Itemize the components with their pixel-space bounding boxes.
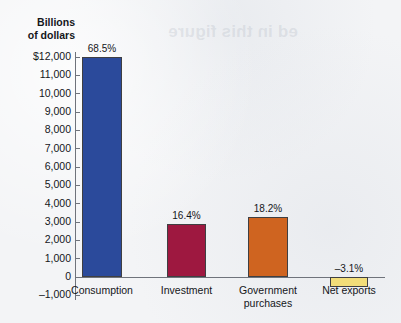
x-axis-category-label: Net exports — [299, 284, 399, 297]
bar-value-label: 16.4% — [147, 210, 227, 221]
bar-value-label: 68.5% — [62, 43, 142, 54]
y-axis-tick-label: 3,000 — [0, 215, 71, 227]
y-axis-tick — [75, 57, 80, 58]
y-axis-tick-label: 6,000 — [0, 160, 71, 172]
bar-value-label: 18.2% — [228, 203, 308, 214]
y-axis-tick — [75, 185, 80, 186]
y-axis-tick — [75, 222, 80, 223]
y-axis-tick — [75, 148, 80, 149]
y-axis-line — [75, 52, 76, 300]
bar-investment — [167, 224, 206, 277]
y-axis-tick-label: 7,000 — [0, 142, 71, 154]
y-axis-tick — [75, 112, 80, 113]
y-axis-title-line-2: of dollars — [0, 29, 75, 42]
y-axis-tick-label: 11,000 — [0, 68, 71, 80]
y-axis-tick — [75, 203, 80, 204]
bar-chart: Billions of dollars $12,00011,00010,0009… — [0, 0, 401, 323]
y-axis-tick-label: $12,000 — [0, 50, 71, 62]
y-axis-title-line-1: Billions — [0, 16, 75, 29]
y-axis-tick — [75, 130, 80, 131]
y-axis-tick — [75, 240, 80, 241]
y-axis-tick-label: 10,000 — [0, 87, 71, 99]
y-axis-tick-label: 8,000 — [0, 123, 71, 135]
y-axis-tick-label: 1,000 — [0, 252, 71, 264]
y-axis-tick-label: 4,000 — [0, 197, 71, 209]
y-axis-tick-label: 2,000 — [0, 233, 71, 245]
y-axis-tick — [75, 277, 80, 278]
y-axis-tick — [75, 167, 80, 168]
y-axis-tick-label: 9,000 — [0, 105, 71, 117]
bar-government-purchases — [248, 217, 288, 277]
y-axis-title: Billions of dollars — [0, 16, 75, 41]
y-axis-tick-label: 0 — [0, 270, 71, 282]
y-axis-tick — [75, 258, 80, 259]
bar-value-label: –3.1% — [309, 263, 389, 274]
y-axis-tick — [75, 93, 80, 94]
y-axis-tick-label: 5,000 — [0, 178, 71, 190]
y-axis-tick — [75, 75, 80, 76]
bar-consumption — [82, 57, 122, 277]
